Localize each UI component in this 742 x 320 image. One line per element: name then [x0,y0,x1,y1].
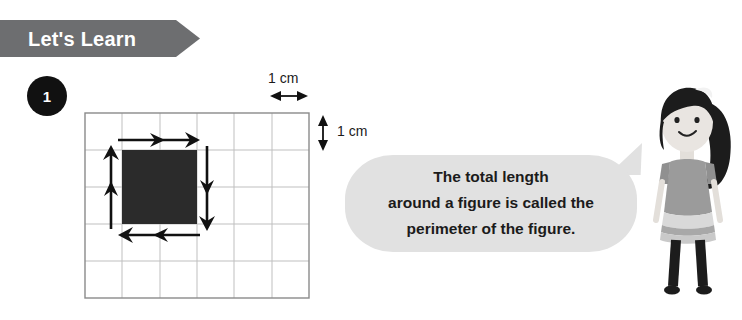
speech-bubble-text: The total length around a figure is call… [345,164,637,242]
leg-right [700,240,703,286]
character-illustration [640,80,742,305]
bubble-line-2: around a figure is called the [345,190,637,216]
perimeter-keyword: perimeter [407,220,478,237]
bubble-line-3-rest: of the figure. [477,220,575,237]
bubble-line-3: perimeter of the figure. [345,216,637,242]
leg-left [673,240,676,286]
figure-area: 1 cm 1 cm [0,0,430,320]
shoe-right [696,286,712,295]
measure-label-vertical: 1 cm [337,123,367,139]
eye-right [694,117,699,123]
grid-figure-svg [0,0,430,320]
measure-h-head-right [297,91,308,101]
arm-right [714,182,720,220]
girl-figure-svg [640,80,742,305]
measure-v-head-top [318,115,328,126]
eye-left [674,117,679,123]
shoe-left [664,286,680,295]
shaded-square [122,150,197,224]
arm-left [656,182,662,220]
measure-v-head-bottom [318,140,328,151]
bubble-line-1: The total length [345,164,637,190]
measure-label-horizontal: 1 cm [268,70,298,86]
dress [664,159,712,216]
measure-h-head-left [270,91,281,101]
